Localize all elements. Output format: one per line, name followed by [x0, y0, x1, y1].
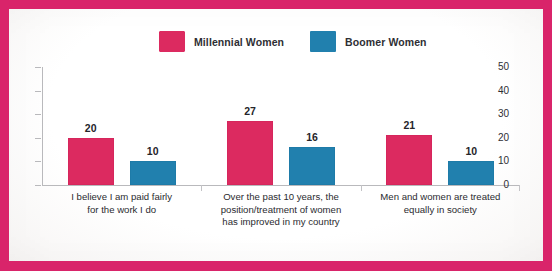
bar-value-label-1-boomer: 16	[289, 131, 335, 143]
bar-1-boomer	[289, 147, 335, 185]
category-label-2: Men and women are treatedequally in soci…	[361, 191, 520, 216]
legend-item-millennial-women: Millennial Women	[159, 31, 284, 52]
y-axis-line	[42, 67, 43, 185]
y-axis-tick-10	[35, 161, 41, 162]
category-label-line: Over the past 10 years, the	[201, 191, 360, 204]
y-axis-tick-label-40: 40	[487, 85, 509, 96]
y-axis-tick-label-30: 30	[487, 108, 509, 119]
legend-item-boomer-women: Boomer Women	[310, 31, 427, 52]
y-axis-tick-50	[35, 67, 41, 68]
legend-label-millennial-women: Millennial Women	[194, 36, 284, 48]
y-axis-tick-20	[35, 138, 41, 139]
category-label-0: I believe I am paid fairlyfor the work I…	[42, 191, 201, 216]
category-label-line: I believe I am paid fairly	[42, 191, 201, 204]
grouped-bar-chart: Millennial Women Boomer Women 0102030405…	[9, 9, 543, 261]
category-label-1: Over the past 10 years, theposition/trea…	[201, 191, 360, 229]
y-axis-tick-0	[35, 185, 41, 186]
bar-value-label-2-boomer: 10	[448, 145, 494, 157]
bar-value-label-2-millennial: 21	[386, 119, 432, 131]
bar-value-label-0-boomer: 10	[130, 145, 176, 157]
y-axis-tick-label-20: 20	[487, 132, 509, 143]
bar-1-millennial	[227, 121, 273, 185]
bar-2-boomer	[448, 161, 494, 185]
y-axis-tick-label-50: 50	[487, 61, 509, 72]
bar-value-label-0-millennial: 20	[68, 122, 114, 134]
category-label-line: Men and women are treated	[361, 191, 520, 204]
blue-swatch-icon	[310, 31, 336, 52]
category-label-line: position/treatment of women	[201, 204, 360, 217]
scanned-page: Millennial Women Boomer Women 0102030405…	[0, 0, 552, 271]
y-axis-tick-40	[35, 91, 41, 92]
category-label-line: equally in society	[361, 204, 520, 217]
chart-legend: Millennial Women Boomer Women	[159, 31, 427, 52]
x-axis-line	[42, 185, 520, 186]
bar-0-millennial	[68, 138, 114, 185]
category-label-line: has improved in my country	[201, 216, 360, 229]
legend-label-boomer-women: Boomer Women	[345, 36, 427, 48]
y-axis-tick-30	[35, 114, 41, 115]
bar-0-boomer	[130, 161, 176, 185]
bar-2-millennial	[386, 135, 432, 185]
category-label-line: for the work I do	[42, 204, 201, 217]
pink-swatch-icon	[159, 31, 185, 52]
bar-value-label-1-millennial: 27	[227, 105, 273, 117]
plot-area: 01020304050 201027162110	[42, 67, 520, 185]
